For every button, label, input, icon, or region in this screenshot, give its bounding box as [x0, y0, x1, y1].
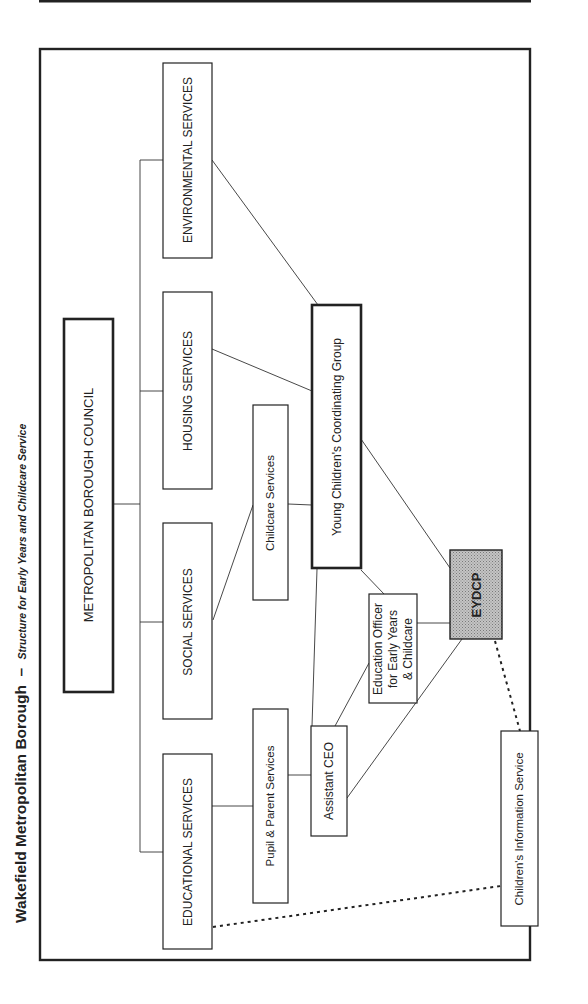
node-pupil-parent: Pupil & Parent Services: [253, 709, 288, 903]
node-council: METROPOLITAN BOROUGH COUNCIL: [64, 319, 113, 692]
node-eydcp-label: EYDCP: [469, 572, 484, 617]
node-childcare-label: Childcare Services: [264, 455, 276, 551]
node-education-officer-line-2: for Early Years: [386, 610, 400, 688]
node-cis: Children's Information Service: [501, 731, 538, 926]
node-education-officer: Education Officer for Early Years & Chil…: [369, 594, 417, 703]
node-yccg-label: Young Children's Coordinating Group: [330, 338, 344, 536]
page-title: Wakefield Metropolitan Borough – Structu…: [12, 424, 29, 923]
node-educational: EDUCATIONAL SERVICES: [163, 754, 212, 949]
org-chart: Wakefield Metropolitan Borough – Structu…: [0, 0, 588, 1004]
node-housing-label: HOUSING SERVICES: [181, 331, 195, 451]
node-assistant-ceo-label: Assistant CEO: [322, 742, 336, 820]
node-housing: HOUSING SERVICES: [163, 292, 212, 489]
node-cis-label: Children's Information Service: [513, 752, 525, 905]
node-education-officer-line-3: & Childcare: [401, 618, 415, 680]
node-eydcp: EYDCP: [450, 550, 502, 639]
node-environmental-label: ENVIRONMENTAL SERVICES: [181, 77, 195, 243]
dotted-link-eydcp-cis: [495, 641, 520, 731]
node-environmental: ENVIRONMENTAL SERVICES: [163, 63, 212, 258]
node-social-label: SOCIAL SERVICES: [181, 568, 195, 675]
node-yccg: Young Children's Coordinating Group: [312, 305, 361, 568]
top-rule: [39, 0, 531, 3]
node-education-officer-line-1: Education Officer: [371, 603, 385, 695]
node-educational-label: EDUCATIONAL SERVICES: [181, 778, 195, 926]
node-assistant-ceo: Assistant CEO: [311, 726, 347, 836]
node-council-label: METROPOLITAN BOROUGH COUNCIL: [81, 388, 96, 623]
node-pupil-parent-label: Pupil & Parent Services: [264, 745, 276, 866]
node-social: SOCIAL SERVICES: [163, 523, 212, 719]
node-childcare: Childcare Services: [253, 405, 288, 600]
